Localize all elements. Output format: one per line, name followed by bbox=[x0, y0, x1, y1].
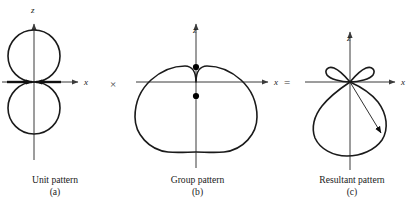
z-axis-label-b: z bbox=[192, 25, 197, 35]
z-axis-label-c: z bbox=[346, 33, 351, 43]
caption-unit-pattern: Unit pattern (a) bbox=[0, 174, 110, 198]
resultant-minor-lobe-left bbox=[326, 67, 350, 82]
equals-operator: = bbox=[284, 76, 290, 88]
resultant-minor-lobe-right bbox=[350, 67, 374, 82]
z-axis-label-a: z bbox=[30, 5, 35, 15]
caption-group-pattern: Group pattern (b) bbox=[140, 174, 255, 198]
x-axis-label-b: x bbox=[273, 77, 278, 87]
panel-unit-pattern: z x bbox=[2, 5, 88, 160]
x-axis-label-a: x bbox=[83, 77, 88, 87]
caption-tag-c: (c) bbox=[290, 186, 414, 198]
panel-resultant-pattern: z x bbox=[305, 32, 405, 170]
array-element-dot-lower bbox=[193, 93, 199, 99]
caption-title-b: Group pattern bbox=[140, 174, 255, 186]
array-element-dot-upper bbox=[193, 64, 199, 70]
panel-group-pattern: z x bbox=[135, 24, 278, 168]
x-axis-label-c: x bbox=[400, 77, 405, 87]
caption-title-c: Resultant pattern bbox=[290, 174, 414, 186]
caption-tag-a: (a) bbox=[0, 186, 110, 198]
pattern-multiplication-figure: z x × z x = z x Un bbox=[0, 0, 414, 207]
caption-tag-b: (b) bbox=[140, 186, 255, 198]
caption-resultant-pattern: Resultant pattern (c) bbox=[290, 174, 414, 198]
caption-title-a: Unit pattern bbox=[0, 174, 110, 186]
multiply-operator: × bbox=[110, 78, 116, 90]
